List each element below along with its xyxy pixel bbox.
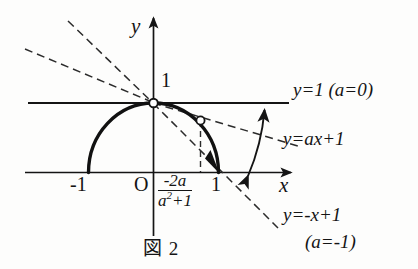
fraction-denominator-base: a [158,191,167,210]
equation-label-y-equals-minus-x-plus-1: y=-x+1 [283,205,341,224]
figure-caption: 図 2 [143,239,179,258]
x-axis-label: x [279,175,288,196]
diagram-canvas [0,0,418,269]
figure-container: y x 1 -1 O 1 -2a a2+1 y=1 (a=0) y=ax+1 y… [0,0,418,269]
point-marker-tangency [196,116,204,124]
y-axis-label: y [131,16,140,37]
equation-label-y-equals-1: y=1 (a=0) [293,80,373,99]
y-tick-label-one: 1 [161,70,171,90]
x-tick-label-negative-one: -1 [70,174,87,194]
fraction-numerator: -2a [158,172,192,191]
rotation-double-arrow [248,110,265,176]
dashed-family-line-shallow [25,49,152,102]
fraction-denominator: a2+1 [158,191,192,209]
equation-label-y-equals-ax-plus-1: y=ax+1 [283,129,345,148]
fraction-denominator-rest: +1 [172,191,192,210]
x-coordinate-fraction-label: -2a a2+1 [158,172,192,209]
point-marker-zero-one [149,99,158,108]
origin-label: O [134,174,148,194]
equation-label-a-equals-minus-1: (a=-1) [305,232,356,251]
x-tick-label-one: 1 [211,174,221,194]
